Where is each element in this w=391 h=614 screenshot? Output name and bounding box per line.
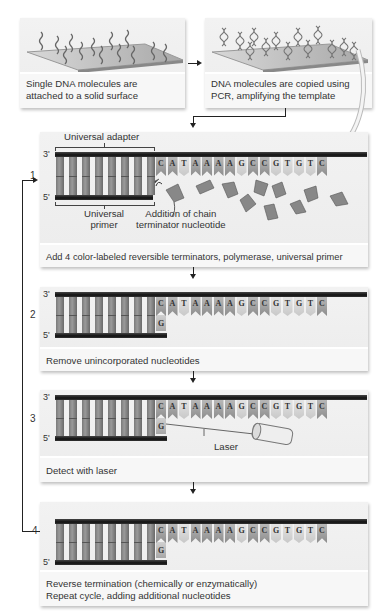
three-prime-label: 3' bbox=[43, 392, 50, 402]
nucleotide: A bbox=[214, 297, 224, 316]
caption-step-1: Add 4 color-labeled reversible terminato… bbox=[40, 243, 368, 267]
primer-strand bbox=[55, 333, 167, 338]
nucleotide: T bbox=[306, 524, 316, 543]
universal-adapter-label: Universal adapter bbox=[64, 131, 139, 142]
step-number-3: 3 bbox=[30, 413, 36, 424]
nucleotide: A bbox=[168, 524, 178, 543]
caption-step-2: Remove unincorporated nucleotides bbox=[40, 347, 368, 371]
nucleotide: G bbox=[237, 297, 247, 316]
nucleotide: A bbox=[202, 524, 212, 543]
nucleotide: T bbox=[179, 400, 189, 419]
caption-single-molecules: Single DNA molecules are attached to a s… bbox=[20, 72, 185, 108]
bracket-tick bbox=[104, 143, 105, 147]
three-prime-label: 3' bbox=[43, 289, 50, 299]
nucleotide: T bbox=[306, 157, 316, 176]
caption-step-3: Detect with laser bbox=[40, 456, 368, 482]
caption-line: Single DNA molecules are bbox=[26, 78, 179, 90]
nucleotide: C bbox=[248, 524, 258, 543]
panel-step-2: 3' G 5' C A T A A A A G C C G T G T C Re… bbox=[40, 287, 368, 371]
nucleotide: C bbox=[317, 297, 327, 316]
five-prime-label: 5' bbox=[43, 433, 50, 443]
arrow-down-icon bbox=[190, 123, 196, 128]
caption-line: Repeat cycle, adding additional nucleoti… bbox=[46, 590, 362, 602]
nucleotide: G bbox=[271, 157, 281, 176]
nucleotide: C bbox=[317, 400, 327, 419]
nucleotide: A bbox=[168, 297, 178, 316]
nucleotide: T bbox=[283, 157, 293, 176]
template-sequence: C A T A A A A G C C G T G T C bbox=[156, 400, 329, 419]
double-helix-adapter bbox=[56, 524, 160, 560]
nucleotide: T bbox=[283, 400, 293, 419]
nucleotide: C bbox=[156, 157, 166, 176]
nucleotide: C bbox=[260, 157, 270, 176]
nucleotide: T bbox=[179, 524, 189, 543]
connector-line bbox=[285, 108, 286, 116]
incorporated-nucleotide: G bbox=[156, 542, 166, 558]
nucleotide: A bbox=[191, 524, 201, 543]
nucleotide: T bbox=[306, 400, 316, 419]
connector-line bbox=[193, 116, 286, 117]
nucleotide: G bbox=[294, 157, 304, 176]
nucleotide: T bbox=[306, 297, 316, 316]
nucleotide: C bbox=[317, 157, 327, 176]
nucleotide: C bbox=[156, 524, 166, 543]
nucleotide: C bbox=[248, 297, 258, 316]
five-prime-label: 5' bbox=[43, 192, 50, 202]
nucleotide: C bbox=[156, 297, 166, 316]
nucleotide: T bbox=[283, 524, 293, 543]
nucleotide: A bbox=[191, 400, 201, 419]
double-helix-adapter bbox=[56, 400, 160, 436]
nucleotide: A bbox=[225, 157, 235, 176]
template-sequence: C A T A A A A G C C G T G T C bbox=[156, 297, 329, 316]
three-prime-label: 3' bbox=[43, 149, 50, 159]
primer-strand bbox=[55, 195, 153, 200]
double-helix-adapter bbox=[56, 297, 160, 333]
nucleotide: G bbox=[271, 524, 281, 543]
template-sequence: C A T A A A A G C C G T G T C bbox=[156, 524, 329, 543]
cycle-arrow-icon bbox=[33, 177, 38, 183]
nucleotide: G bbox=[237, 157, 247, 176]
adapter-bracket bbox=[55, 147, 155, 151]
arrow-down-icon bbox=[190, 378, 196, 383]
arrow-down-icon bbox=[190, 489, 196, 494]
label-line: Addition of chain bbox=[136, 208, 226, 219]
nucleotide: A bbox=[225, 524, 235, 543]
primer-strand bbox=[55, 436, 167, 441]
nucleotide: A bbox=[214, 157, 224, 176]
primer-bracket bbox=[55, 202, 155, 206]
addition-terminator-label: Addition of chain terminator nucleotide bbox=[136, 208, 226, 230]
panel-step-4: G 5' C A T A A A A G C C G T G T C Rever… bbox=[40, 502, 368, 606]
nucleotide: G bbox=[271, 297, 281, 316]
nucleotide: G bbox=[271, 400, 281, 419]
nucleotide: G bbox=[237, 524, 247, 543]
double-helix-adapter bbox=[56, 157, 160, 195]
nucleotide: T bbox=[179, 297, 189, 316]
nucleotide: C bbox=[248, 400, 258, 419]
nucleotide: G bbox=[294, 297, 304, 316]
nucleotide: A bbox=[168, 157, 178, 176]
nucleotide: T bbox=[283, 297, 293, 316]
nucleotide: G bbox=[294, 400, 304, 419]
five-prime-label: 5' bbox=[43, 557, 50, 567]
cycle-loop-line bbox=[23, 531, 40, 532]
nucleotide: C bbox=[260, 297, 270, 316]
nucleotide: T bbox=[179, 157, 189, 176]
nucleotide: C bbox=[260, 400, 270, 419]
solid-surface-slide-icon bbox=[23, 24, 183, 74]
label-line: Universal bbox=[84, 208, 124, 219]
arrow-down-icon bbox=[190, 274, 196, 279]
label-line: primer bbox=[84, 219, 124, 230]
nucleotide: C bbox=[260, 524, 270, 543]
nucleotide: A bbox=[225, 400, 235, 419]
nucleotide: A bbox=[191, 297, 201, 316]
nucleotide: A bbox=[191, 157, 201, 176]
nucleotide: A bbox=[202, 157, 212, 176]
panel-step-3: 3' G 5' C A T A A A A G C C G T G T C La… bbox=[40, 390, 368, 482]
incorporated-nucleotide: G bbox=[156, 315, 166, 331]
five-prime-label: 5' bbox=[43, 330, 50, 340]
nucleotide: A bbox=[168, 400, 178, 419]
nucleotide: A bbox=[214, 524, 224, 543]
caption-line: attached to a solid surface bbox=[26, 90, 179, 102]
nucleotide: C bbox=[248, 157, 258, 176]
nucleotide: C bbox=[156, 400, 166, 419]
